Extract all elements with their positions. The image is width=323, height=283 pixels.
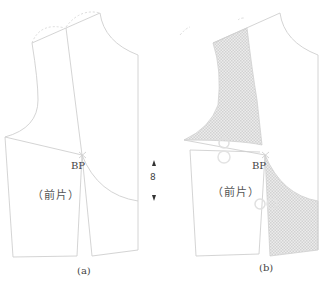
panel-b-hatched-upper xyxy=(184,28,262,145)
panel-a-hem-left xyxy=(13,256,77,257)
panel-a-drawing xyxy=(5,12,138,257)
pattern-drafting-figure xyxy=(0,0,323,283)
panel-b-bp-label: BP xyxy=(252,160,266,171)
panel-b-shoulder-dash-1 xyxy=(180,27,190,35)
panel-b-drawing xyxy=(180,13,318,256)
panel-a-side-seam xyxy=(5,137,82,155)
panel-b-hem xyxy=(196,254,259,256)
panel-a-armhole xyxy=(5,43,38,137)
panel-a-hem-right xyxy=(92,250,138,256)
measure-arrow-down-icon xyxy=(152,195,156,201)
panel-a-bust-curve xyxy=(82,155,138,201)
panel-b-shoulder-dash-2 xyxy=(238,18,244,20)
panel-a-bp-label: BP xyxy=(71,160,85,171)
panel-a-piece-label: （前片） xyxy=(32,186,80,202)
measurement-value: 8 xyxy=(150,172,156,182)
panel-a-neckline xyxy=(100,13,138,55)
panel-a-shoulder-curve-rotated xyxy=(66,12,100,27)
measure-arrow-up-icon xyxy=(152,160,156,166)
panel-a-left-side xyxy=(5,137,13,257)
panel-b-left-side xyxy=(190,150,196,256)
panel-b-neckline xyxy=(280,13,318,55)
panel-a-dart-line xyxy=(66,28,82,155)
panel-b-piece-label: （前片） xyxy=(212,183,260,199)
panel-b-caption: (b) xyxy=(259,262,273,273)
panel-a-caption: (a) xyxy=(77,265,91,276)
panel-b-hatched-lower xyxy=(265,155,318,256)
